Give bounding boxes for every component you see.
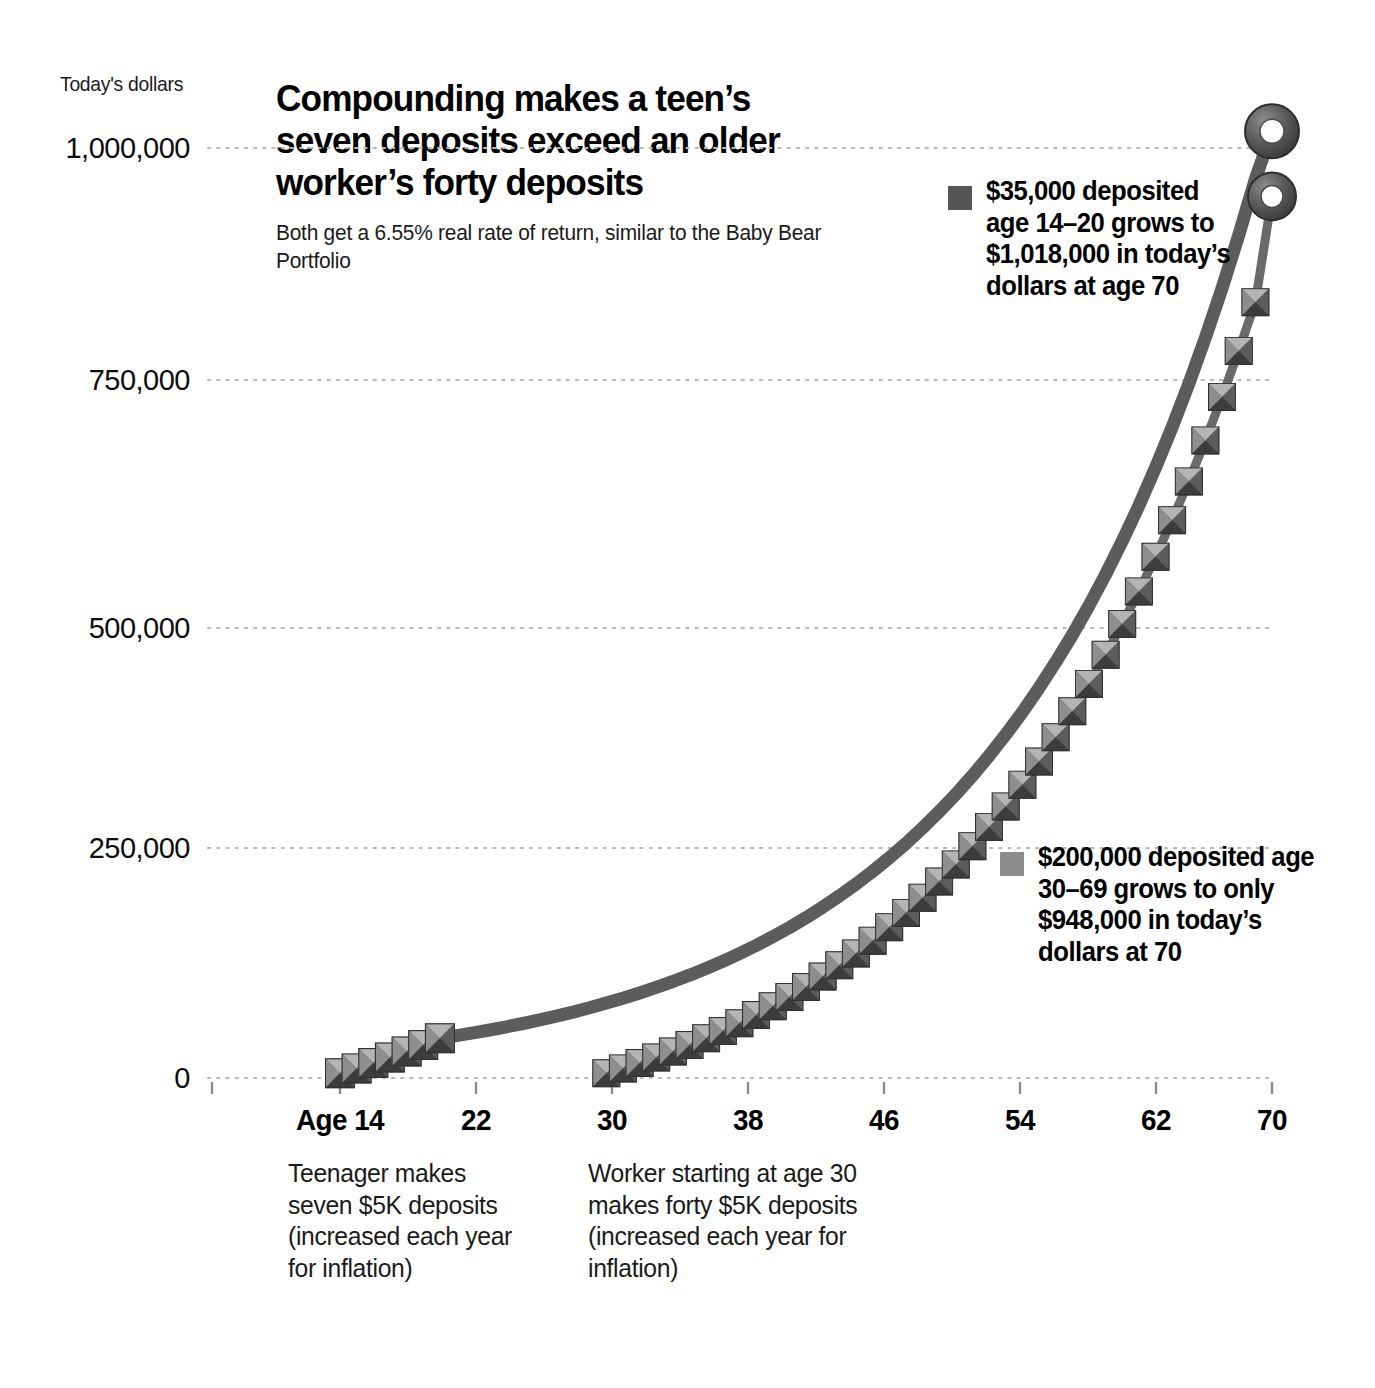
y-tick-label-1000000: 1,000,000 — [65, 132, 190, 165]
x-axis-tick-marks — [212, 1082, 1272, 1094]
legend-swatch-worker — [1000, 852, 1024, 876]
x-tick-label-46: 46 — [869, 1103, 899, 1137]
footnote-teen: Teenager makes seven $5K deposits (incre… — [288, 1158, 535, 1285]
legend-item-worker: $200,000 deposited age 30–69 grows to on… — [1000, 842, 1330, 968]
x-tick-label-age14: Age 14 — [296, 1103, 384, 1137]
x-tick-label-62: 62 — [1141, 1103, 1171, 1137]
series-markers-teen — [325, 1023, 455, 1088]
y-tick-label-250000: 250,000 — [89, 832, 190, 865]
x-tick-label-70: 70 — [1257, 1103, 1287, 1137]
x-tick-label-54: 54 — [1005, 1103, 1035, 1137]
footnote-worker: Worker starting at age 30 makes forty $5… — [588, 1158, 873, 1285]
legend-label-teen: $35,000 deposited age 14–20 grows to $1,… — [986, 176, 1244, 302]
y-tick-label-500000: 500,000 — [89, 612, 190, 645]
legend-item-teen: $35,000 deposited age 14–20 grows to $1,… — [948, 176, 1258, 302]
x-tick-label-30: 30 — [597, 1103, 627, 1137]
legend-label-worker: $200,000 deposited age 30–69 grows to on… — [1038, 842, 1315, 968]
x-tick-label-22: 22 — [461, 1103, 491, 1137]
x-tick-label-38: 38 — [733, 1103, 763, 1137]
y-tick-label-0: 0 — [174, 1062, 190, 1095]
legend-swatch-teen — [948, 186, 972, 210]
y-tick-label-750000: 750,000 — [89, 364, 190, 397]
